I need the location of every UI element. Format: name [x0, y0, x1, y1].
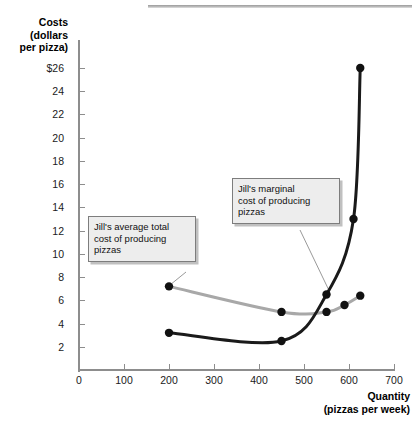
atc-point-550 [322, 308, 330, 316]
x-axis-title-line1: Quantity [260, 390, 410, 403]
mc-point-550 [322, 290, 330, 298]
callout-atc-line3: pizzas [94, 244, 190, 256]
x-axis-title-line2: (pizzas per week) [260, 403, 410, 416]
mc-point-625 [356, 64, 364, 72]
leader-line-atc [172, 272, 186, 283]
atc-point-590 [340, 301, 348, 309]
leader-line-mc [300, 230, 330, 292]
callout-mc-line3: pizzas [238, 206, 334, 218]
mc-point-200 [165, 329, 173, 337]
callout-marginal-cost: Jill's marginal cost of producing pizzas [232, 178, 340, 224]
chart-figure: Costs (dollars per pizza) 24681012141618… [0, 0, 420, 424]
atc-point-200 [165, 282, 173, 290]
callout-average-total-cost: Jill's average total cost of producing p… [88, 216, 196, 262]
callout-mc-line2: cost of producing [238, 195, 334, 207]
atc-curve [169, 286, 360, 314]
atc-point-625 [356, 291, 364, 299]
callout-mc-line1: Jill's marginal [238, 183, 334, 195]
callout-atc-line1: Jill's average total [94, 221, 190, 233]
callout-atc-line2: cost of producing [94, 233, 190, 245]
plot-area [0, 0, 420, 424]
atc-point-450 [277, 308, 285, 316]
x-axis-title: Quantity (pizzas per week) [260, 390, 410, 415]
mc-point-610 [349, 215, 357, 223]
mc-point-450 [277, 337, 285, 345]
